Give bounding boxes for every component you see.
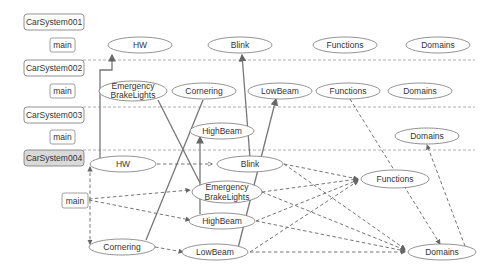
system-label-carsystem003[interactable]: CarSystem003 (24, 107, 84, 123)
node-domains-s1[interactable]: Domains (406, 37, 470, 53)
svg-text:Emergency: Emergency (206, 182, 250, 192)
svg-text:main: main (53, 86, 72, 96)
dep-edge (262, 179, 358, 192)
svg-text:HW: HW (116, 159, 130, 169)
node-lowbeam-s4[interactable]: LowBeam (182, 244, 248, 260)
dep-edge (262, 192, 405, 250)
system-label-carsystem004[interactable]: CarSystem004 (24, 150, 84, 166)
svg-text:main: main (53, 132, 72, 142)
node-highbeam-s4[interactable]: HighBeam (189, 213, 255, 229)
main-box-s3[interactable]: main (50, 130, 75, 144)
node-lowbeam-s2[interactable]: LowBeam (248, 83, 312, 99)
svg-text:HW: HW (133, 40, 147, 50)
svg-text:Functions: Functions (377, 174, 414, 184)
node-functions-s2[interactable]: Functions (316, 83, 380, 99)
node-hw-s1[interactable]: HW (108, 37, 172, 53)
node-blink-s4[interactable]: Blink (217, 156, 283, 172)
node-functions-s4[interactable]: Functions (361, 170, 429, 188)
svg-text:Domains: Domains (421, 40, 455, 50)
node-cornering-s4[interactable]: Cornering (89, 239, 155, 255)
svg-text:Cornering: Cornering (103, 242, 141, 252)
system-label-carsystem001[interactable]: CarSystem001 (24, 14, 84, 30)
node-blink-s1[interactable]: Blink (208, 37, 272, 53)
svg-text:main: main (66, 196, 85, 206)
svg-text:Domains: Domains (425, 247, 459, 257)
node-highbeam-s3[interactable]: HighBeam (190, 123, 254, 139)
svg-text:Blink: Blink (241, 159, 260, 169)
node-domains-s4[interactable]: Domains (408, 244, 476, 260)
svg-text:LowBeam: LowBeam (196, 247, 234, 257)
svg-text:CarSystem002: CarSystem002 (26, 63, 82, 73)
svg-text:Blink: Blink (231, 40, 250, 50)
node-functions-s1[interactable]: Functions (313, 37, 377, 53)
svg-text:Domains: Domains (403, 86, 437, 96)
dep-edge (250, 181, 358, 252)
dep-edge (89, 190, 190, 199)
link-emergency (158, 100, 200, 183)
version-diagram: CarSystem001 CarSystem002 CarSystem003 C… (0, 0, 495, 274)
dep-edge (155, 247, 183, 252)
svg-text:main: main (53, 40, 72, 50)
svg-text:BrakeLights: BrakeLights (205, 192, 250, 202)
link-hw (100, 55, 112, 158)
link-blink (242, 55, 250, 158)
dep-edge (89, 200, 190, 220)
dep-edge (256, 221, 405, 251)
svg-text:CarSystem001: CarSystem001 (26, 17, 82, 27)
svg-text:LowBeam: LowBeam (261, 86, 299, 96)
svg-text:CarSystem004: CarSystem004 (26, 153, 82, 163)
svg-text:Domains: Domains (410, 131, 444, 141)
system-label-carsystem002[interactable]: CarSystem002 (24, 60, 84, 76)
node-emergency-brakelights-s2[interactable]: Emergency BrakeLights (99, 81, 167, 101)
svg-text:HighBeam: HighBeam (202, 216, 242, 226)
node-domains-s2[interactable]: Domains (388, 83, 452, 99)
main-box-s1[interactable]: main (50, 38, 75, 52)
svg-text:Functions: Functions (327, 40, 364, 50)
main-box-s2[interactable]: main (50, 84, 75, 98)
dep-edge (427, 145, 465, 246)
svg-text:Functions: Functions (330, 86, 367, 96)
svg-text:HighBeam: HighBeam (202, 126, 242, 136)
main-box-s4[interactable]: main (62, 193, 88, 208)
node-hw-s4[interactable]: HW (90, 156, 156, 172)
node-cornering-s2[interactable]: Cornering (172, 83, 236, 99)
svg-text:BrakeLights: BrakeLights (111, 90, 156, 100)
svg-text:Cornering: Cornering (185, 86, 223, 96)
node-domains-s3[interactable]: Domains (395, 128, 459, 144)
node-emergency-brakelights-s4[interactable]: Emergency BrakeLights (192, 181, 262, 203)
svg-text:CarSystem003: CarSystem003 (26, 110, 82, 120)
